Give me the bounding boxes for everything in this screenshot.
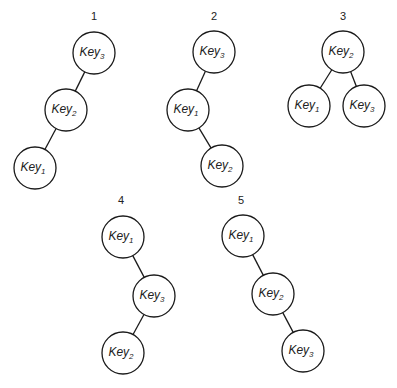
edge-k2-k3 — [351, 72, 357, 87]
node-key-2: Key2 — [322, 31, 364, 73]
tree-2: 2Key3Key1Key2 — [167, 10, 243, 187]
node-key-2: Key2 — [102, 332, 144, 374]
node-key-3: Key3 — [343, 85, 385, 127]
bst-diagram: 1Key3Key2Key12Key3Key1Key23Key2Key1Key34… — [0, 0, 397, 388]
edge-k3-k2 — [75, 72, 84, 91]
edge-k1-k3 — [133, 256, 144, 278]
edge-k2-k1 — [320, 70, 332, 88]
tree-number-label: 3 — [340, 10, 346, 22]
tree-number-label: 4 — [118, 194, 124, 206]
edge-k3-k1 — [197, 71, 206, 91]
node-key-1: Key1 — [288, 85, 330, 127]
tree-number-label: 2 — [211, 10, 217, 22]
node-key-3: Key3 — [282, 330, 324, 372]
node-key-2: Key2 — [45, 89, 87, 131]
node-key-3: Key3 — [133, 275, 175, 317]
tree-5: 5Key1Key2Key3 — [222, 194, 324, 372]
tree-1: 1Key3Key2Key1 — [14, 10, 115, 189]
node-key-3: Key3 — [193, 31, 235, 73]
node-key-2: Key2 — [201, 145, 243, 187]
edge-k2-k3 — [283, 313, 293, 333]
tree-number-label: 1 — [91, 10, 97, 22]
edge-k2-k1 — [45, 129, 56, 150]
node-key-1: Key1 — [222, 215, 264, 257]
edge-k1-k2 — [199, 128, 211, 148]
node-key-1: Key1 — [102, 216, 144, 258]
node-key-3: Key3 — [73, 32, 115, 74]
node-key-2: Key2 — [252, 273, 294, 315]
tree-3: 3Key2Key1Key3 — [288, 10, 385, 127]
tree-number-label: 5 — [238, 194, 244, 206]
edge-k3-k2 — [133, 314, 144, 334]
node-key-1: Key1 — [167, 89, 209, 131]
tree-4: 4Key1Key3Key2 — [102, 194, 175, 374]
edge-k1-k2 — [253, 255, 264, 276]
node-key-1: Key1 — [14, 147, 56, 189]
